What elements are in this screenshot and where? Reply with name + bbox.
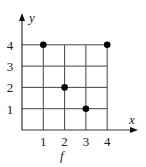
y-axis-label: y (27, 10, 35, 25)
y-tick-label: 4 (7, 38, 14, 53)
y-axis-arrow-icon (19, 13, 25, 21)
function-graph: 12341234 x y f (0, 0, 146, 167)
data-point (40, 42, 47, 49)
data-point (61, 84, 68, 91)
x-axis-arrow-icon (130, 127, 138, 133)
data-point (83, 105, 90, 112)
x-axis-label: x (128, 112, 135, 127)
data-points (40, 42, 110, 112)
y-tick-label: 3 (7, 59, 14, 74)
axes (19, 13, 138, 133)
x-tick-label: 3 (83, 134, 90, 149)
x-tick-label: 4 (104, 134, 111, 149)
y-tick-label: 1 (7, 102, 14, 117)
function-caption: f (60, 148, 66, 163)
y-tick-label: 2 (7, 80, 14, 95)
data-point (104, 42, 111, 49)
x-tick-label: 1 (40, 134, 47, 149)
x-tick-label: 2 (61, 134, 68, 149)
